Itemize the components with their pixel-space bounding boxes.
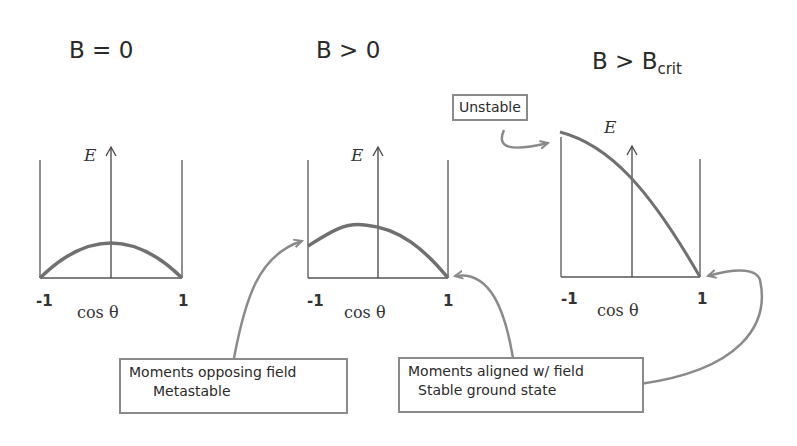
opposing-field-text: Moments opposing field — [129, 363, 338, 382]
x-tick-max: 1 — [697, 290, 707, 308]
x-tick-min: -1 — [561, 290, 578, 308]
panel-2-plot: E -1 1 cos θ — [307, 145, 453, 322]
y-axis-label: E — [603, 117, 617, 137]
x-tick-max: 1 — [443, 292, 453, 310]
metastable-text: Metastable — [129, 382, 338, 401]
panel-1-plot: E -1 1 cos θ — [36, 145, 188, 322]
aligned-field-box: Moments aligned w/ field Stable ground s… — [398, 357, 644, 413]
unstable-label-box: Unstable — [452, 94, 528, 121]
aligned-field-text: Moments aligned w/ field — [408, 362, 634, 381]
stable-ground-state-text: Stable ground state — [408, 381, 634, 400]
unstable-label: Unstable — [459, 99, 521, 115]
arrow-unstable — [502, 130, 548, 148]
opposing-field-box: Moments opposing field Metastable — [119, 358, 348, 414]
y-axis-label: E — [83, 145, 97, 165]
arrow-metastable — [234, 241, 302, 358]
y-axis-label: E — [350, 145, 364, 165]
x-axis-label: cos θ — [597, 301, 639, 320]
x-tick-min: -1 — [36, 292, 53, 310]
x-tick-min: -1 — [307, 292, 324, 310]
panel-3-plot: E -1 1 cos θ — [560, 117, 707, 320]
arrow-aligned-panel3 — [640, 271, 762, 385]
x-tick-max: 1 — [178, 292, 188, 310]
energy-curve — [560, 132, 700, 277]
x-axis-label: cos θ — [344, 303, 386, 322]
x-axis-label: cos θ — [77, 303, 119, 322]
arrow-aligned-panel2 — [455, 275, 513, 358]
